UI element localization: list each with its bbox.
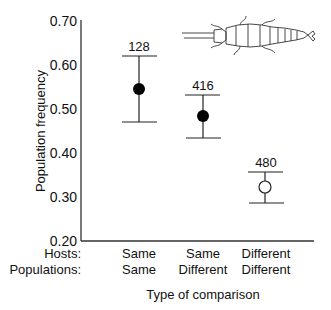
row-label-populations: Populations: [9,262,81,277]
category-hosts: Same [186,246,220,261]
y-tick-label: 0.40 [50,145,77,161]
data-point-different-different: 480 [248,155,284,203]
open-marker [259,181,271,193]
sample-size-label: 480 [255,155,277,170]
chart: 0.70 0.60 0.50 0.40 0.30 0.20 Population… [0,0,331,310]
category-populations: Different [179,262,228,277]
filled-marker [197,110,209,122]
y-axis-label: Population frequency [33,69,48,192]
data-point-same-same: 128 [122,39,157,122]
category-hosts: Different [242,246,291,261]
category-populations: Different [242,262,291,277]
data-point-same-different: 416 [185,78,221,138]
x-axis-label: Type of comparison [146,287,259,302]
insect-illustration-icon [182,16,315,55]
sample-size-label: 128 [128,39,150,54]
filled-marker [133,83,145,95]
row-label-hosts: Hosts: [44,246,81,261]
y-tick-label: 0.30 [50,189,77,205]
category-hosts: Same [122,246,156,261]
sample-size-label: 416 [192,78,214,93]
y-tick-label: 0.50 [50,101,77,117]
category-populations: Same [122,262,156,277]
y-tick-label: 0.70 [50,13,77,29]
y-tick-label: 0.60 [50,57,77,73]
